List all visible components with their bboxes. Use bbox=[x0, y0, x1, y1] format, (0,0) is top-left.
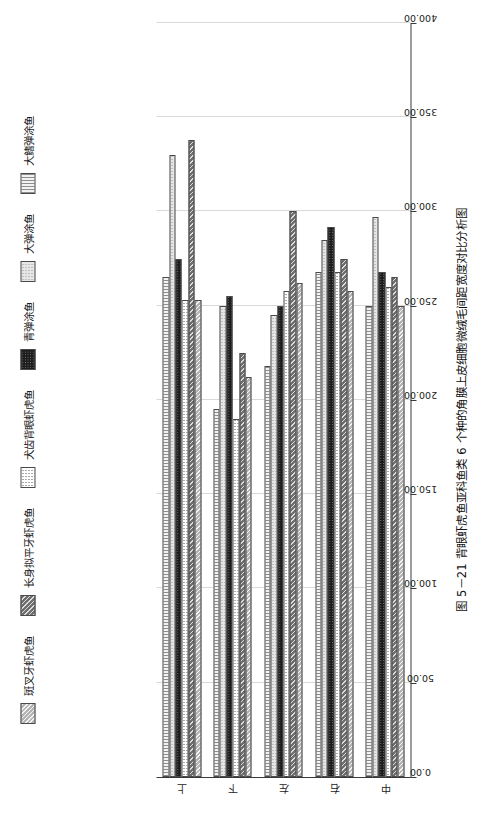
legend-item-label: 大弹涂鱼 bbox=[20, 214, 35, 254]
figure-canvas: 斑叉牙虾虎鱼长身拟平牙虾虎鱼犬齿背眼虾虎鱼青弹涂鱼大弹涂鱼大鳍弹涂鱼 0.005… bbox=[0, 0, 487, 820]
bar bbox=[378, 272, 384, 777]
bar bbox=[194, 300, 200, 777]
bar-row bbox=[372, 24, 378, 777]
bar-row bbox=[340, 24, 346, 777]
bar bbox=[365, 306, 371, 777]
bar-row bbox=[219, 24, 225, 777]
bar bbox=[315, 272, 321, 777]
bar-group bbox=[156, 24, 207, 777]
bar-row bbox=[270, 24, 276, 777]
plot-area bbox=[156, 24, 410, 778]
bar bbox=[175, 259, 181, 777]
bar bbox=[372, 217, 378, 777]
bar bbox=[162, 277, 168, 777]
bar-row bbox=[283, 24, 289, 777]
category-label: 右 bbox=[329, 782, 339, 797]
bar bbox=[334, 272, 340, 777]
bar bbox=[270, 315, 276, 777]
bar bbox=[264, 366, 270, 777]
legend-item: 长身拟平牙虾虎鱼 bbox=[12, 508, 42, 616]
axis-tick-label: 150.00 bbox=[403, 484, 436, 495]
legend-swatch-icon bbox=[20, 261, 35, 282]
axis-tick-label: 250.00 bbox=[403, 296, 436, 307]
bar bbox=[327, 227, 333, 777]
axis-tick-label: 200.00 bbox=[403, 390, 436, 401]
bar-row bbox=[327, 24, 333, 777]
category-label: 左 bbox=[278, 782, 288, 797]
bar bbox=[385, 287, 391, 777]
figure-caption: 图 5－21 背眼虾虎鱼亚科鱼类 6 个种的角膜上皮细胞微绒毛间距宽度对比分析图 bbox=[452, 0, 468, 820]
bar bbox=[213, 409, 219, 777]
bar bbox=[245, 377, 251, 777]
plot-wrapper: 0.0050.00100.00150.00200.00250.00300.003… bbox=[150, 0, 450, 820]
bar bbox=[347, 291, 353, 777]
bar-row bbox=[296, 24, 302, 777]
bar bbox=[277, 306, 283, 777]
category-label: 中 bbox=[380, 782, 390, 797]
bar-row bbox=[226, 24, 232, 777]
gridline bbox=[156, 22, 410, 23]
axis-tick-label: 400.00 bbox=[403, 13, 436, 24]
bar-group bbox=[308, 24, 359, 777]
bar-row bbox=[378, 24, 384, 777]
bar-row bbox=[397, 24, 403, 777]
category-label: 上 bbox=[176, 782, 186, 797]
bar-row bbox=[289, 24, 295, 777]
bar-row bbox=[365, 24, 371, 777]
category-label: 下 bbox=[227, 782, 237, 797]
bar-row bbox=[232, 24, 238, 777]
bar bbox=[219, 306, 225, 777]
legend-item-label: 犬齿背眼虾虎鱼 bbox=[20, 390, 35, 460]
legend-swatch-icon bbox=[20, 349, 35, 370]
legend-swatch-icon bbox=[20, 703, 35, 724]
legend-swatch-icon bbox=[20, 595, 35, 616]
bar-row bbox=[391, 24, 397, 777]
bar bbox=[340, 259, 346, 777]
bar-row bbox=[264, 24, 270, 777]
bar-row bbox=[194, 24, 200, 777]
bar-row bbox=[385, 24, 391, 777]
bar bbox=[169, 155, 175, 777]
legend-item: 大弹涂鱼 bbox=[12, 214, 42, 282]
value-axis-line bbox=[410, 24, 411, 778]
bar-row bbox=[277, 24, 283, 777]
legend-item-label: 大鳍弹涂鱼 bbox=[20, 116, 35, 166]
axis-tick-label: 300.00 bbox=[403, 202, 436, 213]
bar-row bbox=[175, 24, 181, 777]
bar bbox=[232, 419, 238, 777]
bar-row bbox=[181, 24, 187, 777]
bar bbox=[181, 300, 187, 777]
legend-item-label: 长身拟平牙虾虎鱼 bbox=[20, 508, 35, 588]
legend-swatch-icon bbox=[20, 467, 35, 488]
bar bbox=[321, 240, 327, 777]
bar bbox=[239, 353, 245, 777]
bar bbox=[226, 296, 232, 777]
legend-item: 大鳍弹涂鱼 bbox=[12, 116, 42, 194]
chart-legend: 斑叉牙虾虎鱼长身拟平牙虾虎鱼犬齿背眼虾虎鱼青弹涂鱼大弹涂鱼大鳍弹涂鱼 bbox=[12, 0, 132, 820]
bar bbox=[296, 283, 302, 777]
legend-item: 青弹涂鱼 bbox=[12, 302, 42, 370]
bar-row bbox=[334, 24, 340, 777]
bar-row bbox=[162, 24, 168, 777]
bar-row bbox=[169, 24, 175, 777]
bar bbox=[283, 291, 289, 777]
axis-tick-label: 350.00 bbox=[403, 107, 436, 118]
legend-item-label: 斑叉牙虾虎鱼 bbox=[20, 636, 35, 696]
bar-row bbox=[245, 24, 251, 777]
bar-row bbox=[213, 24, 219, 777]
bar-row bbox=[315, 24, 321, 777]
bar-row bbox=[239, 24, 245, 777]
legend-item: 犬齿背眼虾虎鱼 bbox=[12, 390, 42, 488]
bar-row bbox=[188, 24, 194, 777]
legend-item: 斑叉牙虾虎鱼 bbox=[12, 636, 42, 724]
bar-group bbox=[258, 24, 309, 777]
bar bbox=[397, 306, 403, 777]
bar bbox=[188, 140, 194, 777]
axis-tick-label: 50.00 bbox=[406, 673, 433, 684]
bar bbox=[289, 212, 295, 778]
bar bbox=[391, 277, 397, 777]
legend-swatch-icon bbox=[20, 173, 35, 194]
legend-item-label: 青弹涂鱼 bbox=[20, 302, 35, 342]
bar-group bbox=[359, 24, 410, 777]
axis-tick-label: 100.00 bbox=[403, 579, 436, 590]
